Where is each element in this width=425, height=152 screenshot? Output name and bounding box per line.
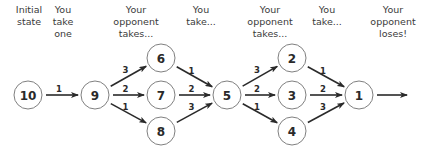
edge-label: 1 [56, 84, 62, 94]
arrow-n8-to-n5: 3 [177, 102, 212, 123]
state-node-1: 1 [345, 81, 373, 109]
arrow-n9-to-n7: 2 [113, 84, 144, 95]
node-label: 7 [157, 89, 165, 103]
edge-label: 2 [320, 84, 326, 94]
edge-label: 1 [254, 102, 260, 112]
edge-label: 3 [122, 65, 128, 75]
node-label: 2 [288, 52, 296, 66]
state-node-8: 8 [147, 117, 175, 145]
state-node-6: 6 [147, 44, 175, 72]
arrow-icon [243, 104, 277, 123]
edge-label: 2 [189, 84, 195, 94]
edge-label: 3 [188, 102, 194, 112]
arrow-n4-to-n1: 3 [308, 102, 344, 123]
node-label: 9 [91, 89, 99, 103]
state-node-3: 3 [278, 81, 306, 109]
node-label: 1 [355, 89, 363, 103]
state-node-9: 9 [81, 81, 109, 109]
game-tree-diagram: 1321123321123 10967852341 [0, 0, 425, 152]
arrow-n3-to-n1: 2 [310, 84, 342, 95]
state-node-4: 4 [278, 117, 306, 145]
node-label: 8 [157, 125, 165, 139]
arrow-n5-to-n3: 2 [245, 84, 275, 95]
node-label: 6 [157, 52, 165, 66]
edge-label: 3 [320, 102, 326, 112]
arrow-n7-to-n5: 2 [179, 84, 210, 95]
arrow-icon [308, 103, 344, 122]
edge-label: 1 [122, 102, 128, 112]
state-node-5: 5 [213, 81, 241, 109]
edge-label: 2 [123, 84, 129, 94]
arrow-n5-to-n4: 1 [243, 102, 277, 123]
node-label: 10 [20, 89, 37, 103]
arrow-icon [177, 103, 212, 122]
arrow-icon [111, 104, 146, 123]
edge-label: 2 [254, 84, 260, 94]
state-node-7: 7 [147, 81, 175, 109]
edge-label: 1 [188, 66, 194, 76]
arrow-n10-to-n9: 1 [46, 84, 78, 95]
arrow-n5-to-n2: 3 [243, 65, 278, 86]
edge-label: 1 [320, 66, 326, 76]
state-node-10: 10 [14, 81, 42, 109]
arrow-n9-to-n8: 1 [111, 102, 146, 123]
node-label: 5 [223, 89, 231, 103]
node-label: 4 [288, 125, 296, 139]
edge-label: 3 [254, 65, 260, 75]
state-node-2: 2 [278, 44, 306, 72]
node-label: 3 [288, 89, 296, 103]
